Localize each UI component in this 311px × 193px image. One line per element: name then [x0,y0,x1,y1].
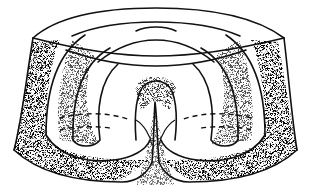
topology-figure [0,0,311,193]
handlebody-drawing [0,0,311,193]
